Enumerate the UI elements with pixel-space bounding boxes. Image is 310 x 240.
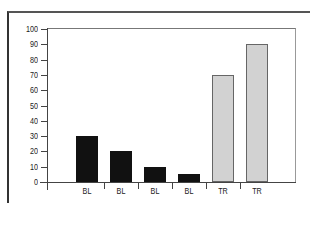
- x-tick-label: BL: [141, 186, 168, 196]
- bar-bl-3: [144, 167, 166, 182]
- x-tick: [172, 183, 173, 189]
- y-tick-label: 90: [14, 39, 38, 49]
- x-tick: [206, 183, 207, 189]
- x-tick-label: TR: [209, 186, 236, 196]
- y-tick-label: 50: [14, 101, 38, 111]
- bar-bl-4: [178, 174, 200, 182]
- bar-tr-5: [212, 75, 234, 182]
- x-tick-label: BL: [73, 186, 100, 196]
- y-tick-label: 0: [14, 177, 38, 187]
- x-tick: [138, 183, 139, 189]
- y-tick-label: 100: [14, 24, 38, 34]
- x-tick: [240, 183, 241, 189]
- x-tick: [104, 183, 105, 189]
- y-tick-label: 70: [14, 70, 38, 80]
- y-tick-label: 20: [14, 146, 38, 156]
- y-tick-label: 30: [14, 131, 38, 141]
- bar-bl-2: [110, 151, 132, 182]
- bar-tr-6: [246, 44, 268, 182]
- y-tick-label: 40: [14, 116, 38, 126]
- y-axis: [47, 28, 48, 190]
- bar-bl-1: [76, 136, 98, 182]
- y-tick-label: 80: [14, 55, 38, 65]
- x-tick-label: TR: [243, 186, 270, 196]
- y-tick-label: 10: [14, 162, 38, 172]
- x-axis: [40, 182, 296, 183]
- x-tick-label: BL: [175, 186, 202, 196]
- y-tick-label: 60: [14, 85, 38, 95]
- x-tick-label: BL: [107, 186, 134, 196]
